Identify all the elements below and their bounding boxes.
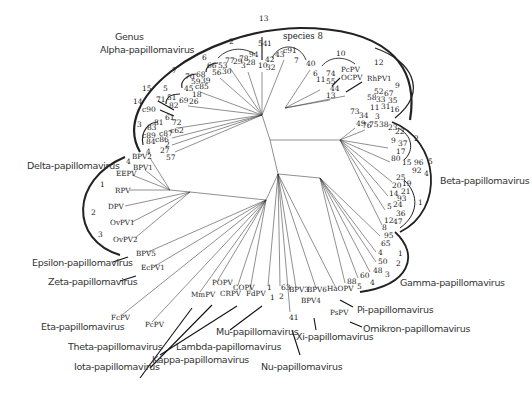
leaf-labels: 1354143c91104232277293789428666535630770… [91,14,433,329]
leaf-label: 1 [100,180,105,189]
eta-genus-label: Eta-papillomavirus [41,321,125,332]
leaf-label: 5 [357,282,362,291]
leaf-label: 69 [179,96,189,105]
omikron-genus-label: Omikron-papillomavirus [363,323,470,334]
leaf-label: 9 [395,81,400,90]
leaf-label: 2 [396,259,401,268]
leaf-label: PsPV [330,308,349,317]
leaf-label: DPV [108,202,125,211]
leaf-label: 24 [393,200,403,209]
leaf-label: 15 [402,158,412,167]
pi-genus-label: Pi-papillomavirus [357,304,434,315]
beta-genus-label: Beta-papillomavirus [440,175,530,186]
leaf-label: 30 [222,67,232,76]
leaf-label: 13 [259,14,269,23]
leaf-label: 16 [390,105,400,114]
leaf-label: POPV [212,278,234,287]
leaf-label: 3 [385,270,390,279]
xi-genus-label: Xi-papillomavirus [296,331,374,342]
leaf-label: 82 [169,101,179,110]
leaf-label: RPV [115,186,131,195]
leaf-label: 28 [246,58,256,67]
phylogenetic-tree-figure: Genus Alpha-papillomavirus species 8 Bet… [0,0,532,397]
leaf-label: 1 [267,283,272,292]
leaf-label: BPV2 [132,152,152,161]
tree-canvas: Genus Alpha-papillomavirus species 8 Bet… [0,0,532,397]
leaf-label: OvPV1 [110,218,135,227]
leaf-label: 1 [267,39,272,48]
leaf-label: 57 [166,153,176,162]
nu-genus-label: Nu-papillomavirus [261,361,343,372]
leaf-label: 3 [98,230,103,239]
leaf-label: 11 [316,75,326,84]
leaf-label: 22 [395,127,405,136]
leaf-label: 2 [279,292,284,301]
leaf-label: EEPV [116,169,137,178]
leaf-label: 5 [163,84,168,93]
leaf-label: 7 [294,56,299,65]
leaf-label: 48 [373,266,383,275]
leaf-label: FdPV [246,289,266,298]
genus-heading: Genus [115,31,144,42]
leaf-label: 56 [212,68,222,77]
leaf-label: 60 [360,271,370,280]
leaf-label: 2 [414,134,419,143]
leaf-label: c90 [142,105,156,114]
leaf-label: c91 [283,46,297,55]
alpha-genus-label: Alpha-papillomavirus [100,44,195,55]
leaf-label: 4 [378,248,383,257]
leaf-label: 84 [146,137,156,146]
leaf-label: 2 [229,37,234,46]
leaf-label: 4 [126,157,131,166]
leaf-label: 11 [370,103,380,112]
epsilon-genus-label: Epsilon-papillomavirus [32,257,133,268]
leaf-label: 65 [381,239,391,248]
leaf-label: 2 [91,208,96,217]
leaf-label: 80 [391,154,401,163]
leaf-label: RhPV1 [367,74,392,83]
delta-genus-label: Delta-papillomavirus [27,160,120,171]
leaf-label: 71 [156,95,166,104]
gamma-genus-label: Gamma-papillomavirus [400,277,505,288]
leaf-label: 5 [428,157,433,166]
kappa-genus-label: Kappa-papillomavirus [152,354,249,365]
leaf-label: 1 [270,293,275,302]
theta-genus-label: Theta-papillomavirus [67,341,163,352]
zeta-genus-label: Zeta-papillomavirus [48,276,138,287]
leaf-label: EcPV1 [141,263,165,272]
leaf-label: PcPV [145,320,165,329]
species-8-label: species 8 [283,31,323,41]
leaf-label: 4 [370,278,375,287]
leaf-label: HaOPV [327,284,354,293]
leaf-label: 92 [412,166,422,175]
leaf-label: 47 [393,217,403,226]
leaf-label: 15 [142,84,152,93]
lambda-genus-label: Lambda-papillomavirus [176,341,282,352]
leaf-label: 50 [378,257,388,266]
leaf-label: 13 [326,91,336,100]
leaf-label: BPV5 [136,249,156,258]
leaf-label: 3 [137,120,142,129]
leaf-label: 1 [418,198,423,207]
leaf-label: FcPV [111,313,131,322]
leaf-label: 32 [266,63,276,72]
leaf-label: 26 [189,97,199,106]
leaf-label: BPV4 [301,296,321,305]
mu-genus-label: Mu-papillomavirus [216,326,299,337]
leaf-label: 12 [374,58,384,67]
iota-genus-label: Iota-papillomavirus [74,361,160,372]
leaf-label: BPV6 [307,285,327,294]
leaf-label: 1 [398,249,403,258]
leaf-label: 9 [391,136,396,145]
leaf-label: OCPV [341,73,363,82]
leaf-label: 7 [172,66,177,75]
leaf-label: 10 [336,49,346,58]
leaf-label: OvPV2 [113,235,138,244]
leaf-label: 41 [289,313,299,322]
leaf-label: 75 [369,120,379,129]
leaf-label: 40 [306,59,316,68]
leaf-label: MmPV [191,290,216,299]
leaf-label: 5 [387,202,392,211]
leaf-label: 4 [424,169,429,178]
